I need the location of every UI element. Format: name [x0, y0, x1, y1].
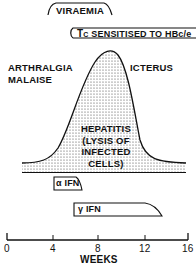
hepatitis-label: HEPATITIS (LYSIS OF INFECTED CELLS)	[78, 123, 134, 169]
x-tick-label-12: 12	[139, 244, 151, 254]
tc-sensitised-label: TC SENSITISED TO HBc/e	[77, 29, 191, 39]
tc-subscript: C	[83, 31, 88, 38]
viraemia-label: VIRAEMIA	[56, 6, 104, 16]
x-tick-label-8: 8	[95, 244, 101, 254]
hepatitis-line2: (LYSIS OF	[78, 135, 134, 147]
alpha-ifn-label: α IFN	[56, 179, 80, 188]
hepatitis-line4: CELLS)	[78, 158, 134, 170]
arthralgia-label: ARTHRALGIA	[8, 63, 73, 73]
gamma-ifn-label: γ IFN	[78, 205, 101, 214]
malaise-label: MALAISE	[8, 75, 52, 85]
hepatitis-line1: HEPATITIS	[78, 123, 134, 135]
x-tick-label-0: 0	[4, 244, 10, 254]
icterus-label: ICTERUS	[130, 63, 173, 73]
x-axis-title: WEEKS	[80, 255, 118, 265]
x-tick-label-4: 4	[50, 244, 56, 254]
x-tick-label-16: 16	[182, 244, 194, 254]
tc-rest: SENSITISED TO HBc/e	[91, 29, 191, 39]
hepatitis-line3: INFECTED	[78, 146, 134, 158]
